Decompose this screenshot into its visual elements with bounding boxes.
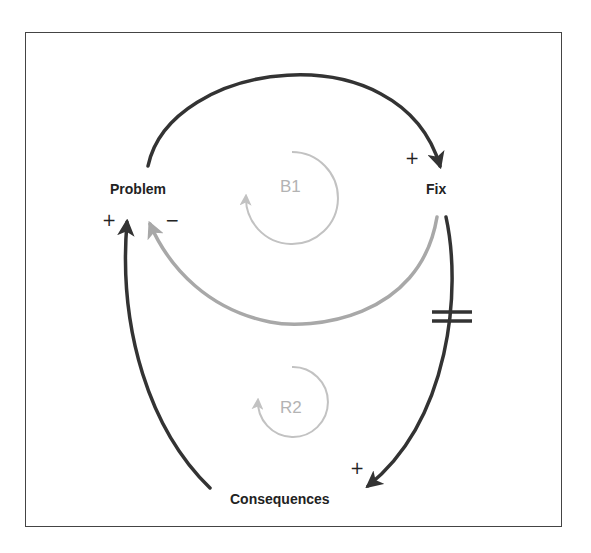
loop-marker-b1-icon [246, 152, 338, 244]
delay-marker-icon [432, 312, 472, 321]
link-fix-to-consequences [368, 217, 452, 486]
link-fix-to-problem [150, 217, 437, 324]
polarity-fix-to-consequences: + [350, 460, 364, 477]
node-consequences: Consequences [230, 491, 330, 507]
causal-loop-diagram [0, 0, 591, 553]
node-problem: Problem [110, 181, 166, 197]
polarity-consequences-to-problem: + [102, 212, 116, 229]
loop-label-b1: B1 [280, 177, 301, 197]
polarity-fix-to-problem: − [165, 212, 179, 229]
link-consequences-to-problem [126, 222, 210, 488]
node-fix: Fix [426, 181, 446, 197]
loop-label-r2: R2 [280, 398, 302, 418]
polarity-problem-to-fix: + [405, 150, 419, 167]
